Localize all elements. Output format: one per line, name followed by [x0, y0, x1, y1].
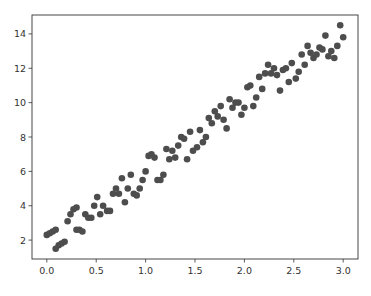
data-point	[97, 211, 104, 218]
data-point	[209, 120, 216, 127]
data-point	[301, 62, 308, 69]
data-point	[175, 142, 182, 149]
data-point	[136, 185, 143, 192]
data-point	[286, 79, 293, 86]
data-point	[187, 129, 194, 136]
y-tick-label: 8	[20, 132, 26, 143]
data-point	[107, 208, 114, 215]
data-point	[265, 62, 272, 69]
data-point	[64, 218, 71, 225]
data-point	[94, 194, 101, 201]
data-point	[194, 144, 201, 151]
x-tick-label: 3.0	[336, 265, 351, 276]
data-point	[166, 156, 173, 163]
data-point	[142, 168, 149, 175]
data-point	[172, 154, 179, 161]
data-point	[88, 215, 95, 222]
data-point	[73, 204, 80, 211]
data-point	[91, 202, 98, 209]
data-point	[331, 55, 338, 62]
data-point	[214, 113, 221, 120]
data-point	[128, 172, 135, 179]
data-point	[125, 185, 132, 192]
data-point	[133, 192, 140, 199]
data-point	[119, 175, 126, 182]
data-point	[169, 147, 176, 154]
y-tick-label: 10	[14, 97, 26, 108]
y-tick-label: 4	[20, 200, 26, 211]
data-point	[322, 32, 329, 39]
y-tick-label: 12	[14, 63, 26, 74]
data-point	[271, 65, 278, 72]
data-point	[217, 103, 224, 110]
data-point	[298, 51, 305, 58]
data-point	[203, 134, 210, 141]
data-point	[295, 68, 302, 75]
data-point	[184, 156, 191, 163]
data-point	[262, 70, 269, 77]
data-point	[337, 22, 344, 29]
x-tick-label: 1.5	[187, 265, 202, 276]
data-point	[235, 99, 242, 106]
x-tick-label: 0.0	[39, 265, 54, 276]
data-point	[304, 43, 311, 50]
y-tick-label: 2	[20, 235, 26, 246]
data-point	[160, 172, 167, 179]
data-point	[256, 74, 263, 81]
x-tick-label: 2.5	[286, 265, 301, 276]
data-point	[250, 103, 257, 110]
data-point	[241, 105, 248, 112]
data-point	[247, 82, 254, 89]
data-point	[181, 135, 188, 142]
data-point	[253, 94, 260, 101]
data-point	[52, 227, 59, 234]
data-point	[197, 127, 204, 134]
data-point	[283, 65, 290, 72]
data-point	[328, 48, 335, 55]
data-point	[163, 146, 170, 153]
scatter-chart: 0.00.51.01.52.02.53.0 2468101214	[0, 0, 371, 296]
data-point	[151, 154, 158, 161]
data-point	[334, 43, 341, 50]
data-point	[238, 111, 245, 118]
data-point	[340, 34, 347, 41]
data-point	[313, 51, 320, 58]
data-point	[122, 199, 129, 206]
data-point	[259, 86, 266, 93]
data-point	[289, 60, 296, 67]
data-point	[61, 239, 68, 246]
x-tick-label: 0.5	[89, 265, 104, 276]
x-tick-label: 1.0	[138, 265, 153, 276]
data-point	[100, 202, 107, 209]
data-point	[226, 96, 233, 103]
x-tick-label: 2.0	[237, 265, 252, 276]
data-point	[79, 228, 86, 235]
data-point	[139, 177, 146, 184]
data-point	[293, 75, 300, 82]
data-point	[223, 125, 230, 132]
y-tick-label: 6	[20, 166, 26, 177]
data-point	[277, 87, 284, 94]
data-point	[319, 46, 326, 53]
data-point	[274, 72, 281, 79]
data-point	[116, 190, 123, 197]
data-point	[220, 117, 227, 124]
y-tick-label: 14	[14, 28, 26, 39]
